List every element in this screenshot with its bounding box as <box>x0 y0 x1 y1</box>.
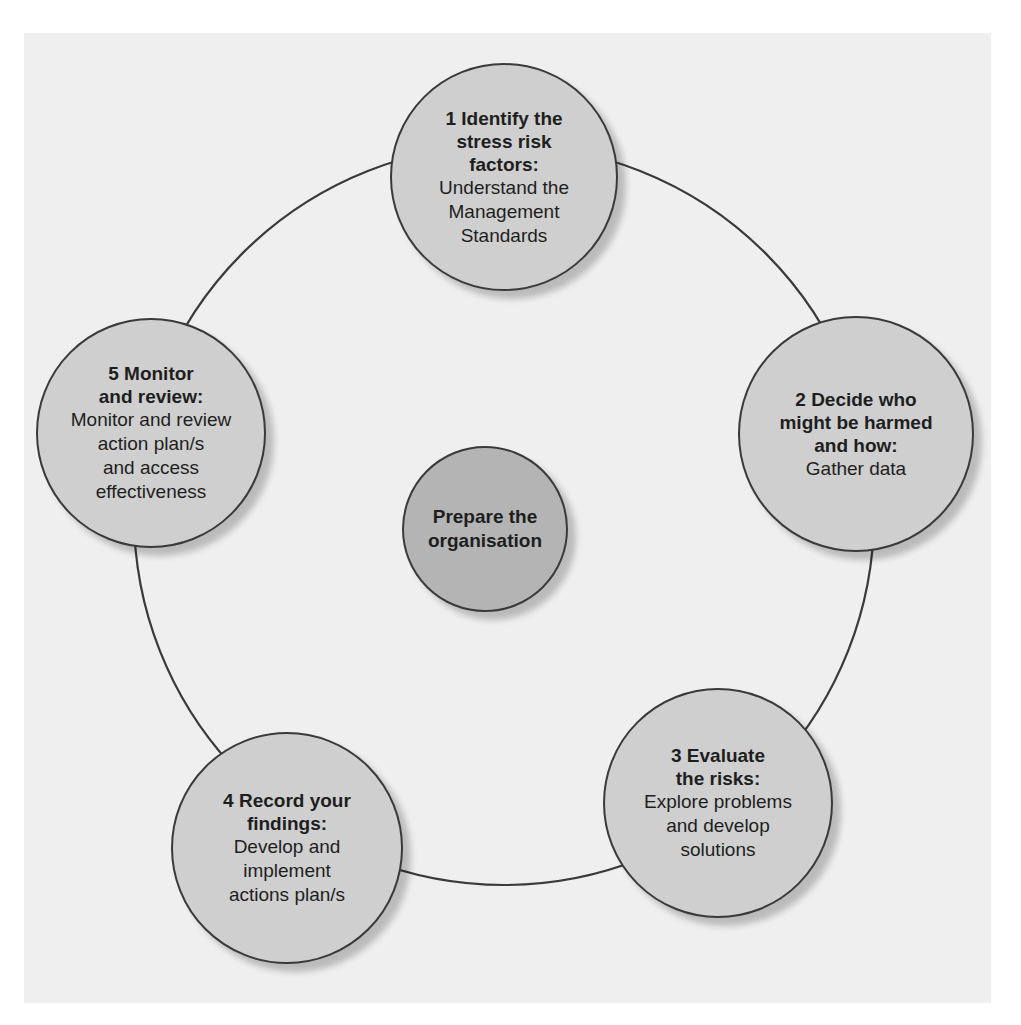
step-4-description: Develop and implement actions plan/s <box>217 835 357 907</box>
step-4-node: 4 Record your findings: Develop and impl… <box>171 732 403 964</box>
step-2-description: Gather data <box>794 457 918 481</box>
center-node: Prepare the organisation <box>402 446 568 612</box>
step-2-node: 2 Decide who might be harmed and how: Ga… <box>738 316 974 552</box>
step-3-node: 3 Evaluate the risks: Explore problems a… <box>603 688 833 918</box>
step-5-description: Monitor and review action plan/s and acc… <box>59 408 244 504</box>
center-title: Prepare the organisation <box>414 505 556 553</box>
step-3-title: 3 Evaluate the risks: <box>657 744 779 790</box>
step-1-description: Understand the Management Standards <box>427 176 581 248</box>
step-1-title: 1 Identify the stress risk factors: <box>431 107 576 176</box>
step-1-node: 1 Identify the stress risk factors: Unde… <box>390 63 618 291</box>
step-2-title: 2 Decide who might be harmed and how: <box>765 388 946 457</box>
step-3-description: Explore problems and develop solutions <box>632 790 804 862</box>
step-5-node: 5 Monitor and review: Monitor and review… <box>36 318 266 548</box>
step-4-title: 4 Record your findings: <box>209 789 365 835</box>
step-5-title: 5 Monitor and review: <box>85 362 218 408</box>
